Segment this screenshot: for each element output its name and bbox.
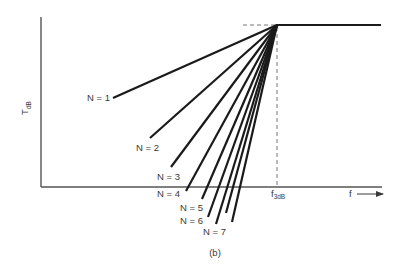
response-line-extra-b — [226, 25, 277, 213]
svg-text:TdB: TdB — [19, 101, 32, 115]
label-n4: N = 4 — [157, 188, 180, 199]
figure-caption: (b) — [209, 247, 221, 258]
label-n1: N = 1 — [87, 92, 110, 103]
label-n6: N = 6 — [180, 215, 203, 226]
y-axis-label: TdB — [19, 101, 32, 115]
response-line-n6 — [208, 25, 277, 217]
response-line-n1 — [113, 25, 277, 98]
response-line-n4 — [186, 25, 277, 191]
label-n5: N = 5 — [180, 202, 203, 213]
label-n3: N = 3 — [157, 171, 180, 182]
x-axis-label: f — [349, 188, 352, 199]
label-n7: N = 7 — [203, 226, 226, 237]
response-line-n2 — [150, 25, 277, 138]
label-n2: N = 2 — [136, 142, 159, 153]
f3db-label: f3dB — [271, 188, 285, 200]
filter-response-diagram: TdB N = 1 N = 2 N = 3 N = 4 N = 5 N = 6 … — [0, 0, 401, 269]
